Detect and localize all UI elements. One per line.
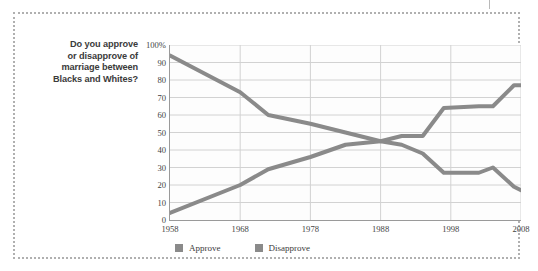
chart-legend: ApproveDisapprove bbox=[175, 243, 310, 253]
question-line-4: Blacks and Whites? bbox=[37, 74, 138, 86]
y-axis-tick-label: 20 bbox=[157, 180, 166, 190]
y-axis-tick-label: 40 bbox=[157, 145, 166, 155]
legend-swatch-icon bbox=[255, 244, 263, 252]
question-label: Do you approve or disapprove of marriage… bbox=[37, 39, 138, 85]
y-axis-tick-label: 50 bbox=[157, 128, 166, 138]
y-axis-tick-label: 90 bbox=[157, 58, 166, 68]
series-line-approve bbox=[170, 85, 521, 213]
legend-label: Approve bbox=[189, 243, 221, 253]
question-line-2: or disapprove of bbox=[37, 51, 138, 63]
x-axis-tick-label: 1998 bbox=[442, 224, 459, 234]
x-axis-tick-label: 2008 bbox=[512, 224, 529, 234]
series-line-disapprove bbox=[170, 56, 521, 191]
y-axis-tick-label: 60 bbox=[157, 110, 166, 120]
x-axis-tick-label: 1978 bbox=[302, 224, 319, 234]
legend-swatch-icon bbox=[175, 244, 183, 252]
y-axis-tick-label: 30 bbox=[157, 163, 166, 173]
scan-artifact-tick bbox=[489, 0, 490, 9]
x-axis-tick-label: 1958 bbox=[161, 224, 178, 234]
x-axis-tick-label: 1988 bbox=[372, 224, 389, 234]
chart-plot-area: 0102030405060708090100% 1958196819781988… bbox=[169, 45, 521, 221]
question-line-1: Do you approve bbox=[37, 39, 138, 51]
question-line-3: marriage between bbox=[37, 62, 138, 74]
legend-label: Disapprove bbox=[269, 243, 311, 253]
legend-item-disapprove[interactable]: Disapprove bbox=[255, 243, 311, 253]
y-axis-tick-label: 70 bbox=[157, 93, 166, 103]
legend-item-approve[interactable]: Approve bbox=[175, 243, 221, 253]
y-axis-tick-label: 100% bbox=[146, 40, 166, 50]
y-axis-tick-label: 80 bbox=[157, 75, 166, 85]
x-axis-tick-label: 1968 bbox=[232, 224, 249, 234]
chart-series-lines bbox=[170, 56, 521, 214]
chart-svg bbox=[170, 45, 521, 220]
y-axis-tick-label: 10 bbox=[157, 198, 166, 208]
chart-plot-wrapper: 0102030405060708090100% 1958196819781988… bbox=[156, 32, 521, 222]
figure-frame: Do you approve or disapprove of marriage… bbox=[13, 12, 520, 259]
